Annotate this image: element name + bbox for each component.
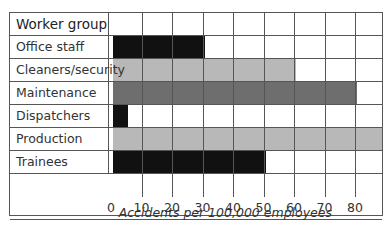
bar-row: Production (10, 128, 382, 151)
gridline (325, 13, 326, 197)
gridline (172, 13, 173, 197)
x-axis-label: Accidents per 100,000 employees (119, 205, 332, 220)
bar-row: Office staff (10, 36, 382, 59)
gridline (203, 13, 204, 197)
category-label: Trainees (10, 151, 109, 173)
chart-table: Worker group Office staffCleaners/securi… (9, 12, 383, 216)
bar-row: Cleaners/security (10, 59, 382, 82)
gridline (233, 13, 234, 197)
x-tick-label: 0 (107, 200, 115, 215)
bar-row: Maintenance (10, 82, 382, 105)
category-label: Office staff (10, 36, 109, 58)
bar (113, 128, 382, 150)
header-label: Worker group (10, 13, 109, 35)
bar (113, 36, 205, 58)
gridline (355, 13, 356, 197)
bar (113, 151, 266, 173)
header-row: Worker group (10, 13, 382, 36)
category-label: Cleaners/security (10, 59, 109, 81)
bar (113, 82, 357, 104)
category-label: Dispatchers (10, 105, 109, 127)
bar (113, 105, 128, 127)
bar (113, 59, 296, 81)
gridline (264, 13, 265, 197)
gridline (142, 13, 143, 197)
bar-row: Dispatchers (10, 105, 382, 128)
x-tick-label: 80 (347, 200, 363, 215)
category-label: Maintenance (10, 82, 109, 104)
gridline (294, 13, 295, 197)
bar-row: Trainees (10, 151, 382, 174)
category-label: Production (10, 128, 109, 150)
